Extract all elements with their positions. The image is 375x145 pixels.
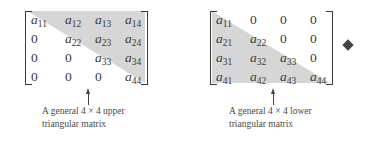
caption-line: A general 4 × 4 lower: [229, 105, 312, 118]
matrix-entry: a31: [216, 50, 232, 66]
matrix-entry: 0: [31, 69, 38, 85]
caption-lower: A general 4 × 4 lower triangular matrix: [229, 105, 312, 130]
lower-triangular-matrix: a11000a21a2200a31a32a330a41a42a43a44: [210, 11, 333, 85]
matrix-entry: a13: [95, 12, 111, 28]
matrix-entry: 0: [280, 12, 287, 28]
right-bracket: [326, 11, 333, 85]
matrix-entry: a12: [65, 12, 81, 28]
matrix-entry: a33: [280, 50, 296, 66]
matrix-entry: a41: [216, 69, 232, 85]
upper-triangular-matrix: a11a12a13a140a22a23a2400a33a34000a44: [25, 11, 148, 85]
matrix-entry: a22: [250, 31, 266, 47]
matrix-entry: 0: [31, 50, 38, 66]
caption-line: triangular matrix: [229, 118, 312, 131]
arrow-upper: [88, 93, 89, 105]
matrix-entry: a11: [31, 12, 47, 28]
matrix-entry: a23: [95, 31, 111, 47]
matrix-entry: a11: [216, 12, 232, 28]
caption-line: triangular matrix: [42, 118, 125, 131]
matrix-entry: 0: [250, 12, 257, 28]
arrowhead-icon: [271, 88, 275, 94]
matrix-entry: 0: [65, 50, 72, 66]
matrix-entry: 0: [31, 31, 38, 47]
matrix-entry: a33: [95, 50, 111, 66]
end-of-example-diamond-icon: [342, 39, 353, 50]
matrix-entry: 0: [310, 50, 317, 66]
matrix-entry: 0: [65, 69, 72, 85]
matrix-entry: 0: [95, 69, 102, 85]
matrix-entry: a43: [280, 69, 296, 85]
matrix-entry: a34: [125, 50, 141, 66]
matrix-entry: 0: [310, 12, 317, 28]
caption-line: A general 4 × 4 upper: [42, 105, 125, 118]
caption-upper: A general 4 × 4 upper triangular matrix: [42, 105, 125, 130]
matrix-entry: a44: [125, 69, 141, 85]
matrix-entry: 0: [280, 31, 287, 47]
right-bracket: [141, 11, 148, 85]
arrow-lower: [273, 93, 274, 105]
matrix-entry: 0: [310, 31, 317, 47]
matrix-entry: a32: [250, 50, 266, 66]
matrix-entry: a21: [216, 31, 232, 47]
matrix-entry: a24: [125, 31, 141, 47]
arrowhead-icon: [86, 88, 90, 94]
matrix-entry: a14: [125, 12, 141, 28]
matrix-entry: a22: [65, 31, 81, 47]
matrix-entry: a44: [310, 69, 326, 85]
matrix-entry: a42: [250, 69, 266, 85]
